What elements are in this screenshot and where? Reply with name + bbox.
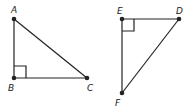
label-a: A bbox=[10, 5, 17, 15]
right-angle-marker-e bbox=[122, 19, 134, 31]
point-f bbox=[120, 91, 125, 96]
segment-df bbox=[122, 19, 179, 93]
label-b: B bbox=[8, 83, 14, 93]
right-angle-marker-b bbox=[14, 66, 26, 78]
point-e bbox=[120, 17, 125, 22]
triangle-def bbox=[122, 19, 179, 93]
label-c: C bbox=[87, 83, 94, 93]
label-e: E bbox=[117, 6, 123, 16]
label-f: F bbox=[115, 98, 121, 108]
point-a bbox=[12, 17, 17, 22]
point-c bbox=[85, 76, 90, 81]
diagram-canvas: A B C E D F bbox=[0, 0, 193, 112]
point-b bbox=[12, 76, 17, 81]
segment-ac bbox=[14, 19, 87, 78]
triangle-abc bbox=[14, 19, 87, 78]
label-d: D bbox=[176, 6, 183, 16]
point-d bbox=[177, 17, 182, 22]
